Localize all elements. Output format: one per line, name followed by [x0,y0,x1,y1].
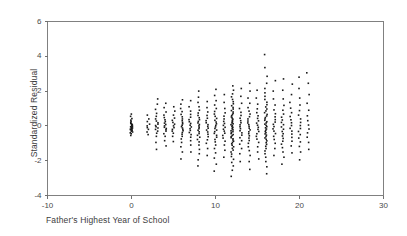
data-points [129,54,309,177]
y-axis-title: Standardized Residual [29,33,39,193]
scatter-plot: -4-20246 -100102030 Standardized Residua… [0,0,407,236]
x-tick-label: 30 [364,201,404,210]
x-axis-title: Father's Highest Year of School [46,215,169,225]
x-tick-label: 20 [280,201,320,210]
x-tick-label: 10 [196,201,236,210]
x-tick-label: -10 [28,201,68,210]
y-tick-label: 6 [14,17,42,26]
tick-marks [45,22,384,199]
x-tick-label: 0 [112,201,152,210]
